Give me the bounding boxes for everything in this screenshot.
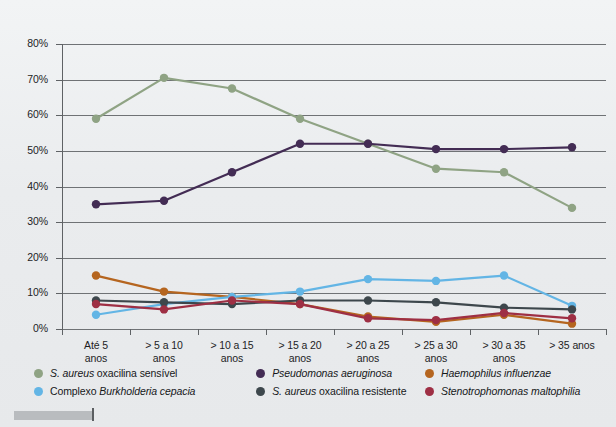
data-point: [432, 277, 440, 285]
y-axis-label: 20%: [8, 251, 48, 263]
legend-label: Haemophilus influenzae: [441, 367, 551, 379]
legend-swatch-icon: [34, 387, 43, 396]
data-point: [568, 204, 576, 212]
legend-label: Complexo Burkholderia cepacia: [50, 385, 195, 397]
data-point: [364, 314, 372, 322]
x-axis-label-line: > 35 anos: [538, 339, 606, 352]
data-point: [228, 168, 236, 176]
x-axis-label-line: > 20 a 25: [334, 339, 402, 352]
legend-label: S. aureus oxacilina sensível: [50, 367, 177, 379]
legend-swatch-icon: [425, 369, 434, 378]
data-point: [228, 296, 236, 304]
corner-bar-artifact: [14, 411, 92, 420]
legend-row: Complexo Burkholderia cepaciaS. aureus o…: [34, 382, 594, 400]
data-point: [432, 164, 440, 172]
data-point: [364, 140, 372, 148]
legend-item: Haemophilus influenzae: [425, 367, 594, 379]
x-axis-label: > 10 a 15anos: [198, 339, 266, 365]
y-axis-label: 10%: [8, 286, 48, 298]
legend-swatch-icon: [256, 387, 265, 396]
data-point: [568, 314, 576, 322]
y-axis-label: 30%: [8, 215, 48, 227]
legend-swatch-icon: [425, 387, 434, 396]
legend-item: Complexo Burkholderia cepacia: [34, 385, 256, 397]
data-point: [432, 298, 440, 306]
legend-label: Pseudomonas aeruginosa: [272, 367, 392, 379]
data-point: [500, 145, 508, 153]
data-point: [432, 145, 440, 153]
data-point: [92, 311, 100, 319]
data-point: [500, 309, 508, 317]
legend-label: Stenotrophomonas maltophilia: [441, 385, 580, 397]
data-point: [296, 140, 304, 148]
x-axis-label: > 5 a 10anos: [130, 339, 198, 365]
legend-row: S. aureus oxacilina sensívelPseudomonas …: [34, 364, 594, 382]
x-axis-tick: [606, 329, 607, 335]
chart-legend: S. aureus oxacilina sensívelPseudomonas …: [34, 364, 594, 400]
x-axis-tick: [266, 329, 267, 335]
data-point: [228, 84, 236, 92]
y-axis-label: 0%: [8, 322, 48, 334]
data-point: [160, 197, 168, 205]
legend-swatch-icon: [256, 369, 265, 378]
legend-item: Stenotrophomonas maltophilia: [425, 385, 594, 397]
data-point: [500, 168, 508, 176]
data-point: [160, 74, 168, 82]
x-axis-tick: [334, 329, 335, 335]
data-point: [296, 115, 304, 123]
x-axis-label: Até 5anos: [62, 339, 130, 365]
data-point: [92, 115, 100, 123]
x-axis-tick: [130, 329, 131, 335]
x-axis-tick: [62, 329, 63, 335]
y-axis-label: 80%: [8, 37, 48, 49]
data-point: [92, 200, 100, 208]
x-axis-label: > 25 a 30anos: [402, 339, 470, 365]
x-axis-tick: [402, 329, 403, 335]
data-point: [92, 271, 100, 279]
x-axis-label: > 15 a 20anos: [266, 339, 334, 365]
data-point: [160, 287, 168, 295]
plot-area: [62, 44, 606, 329]
x-axis-label-line: > 10 a 15: [198, 339, 266, 352]
x-axis-label: > 30 a 35anos: [470, 339, 538, 365]
series-lines: [62, 44, 606, 329]
y-axis-label: 50%: [8, 144, 48, 156]
y-axis-label: 70%: [8, 73, 48, 85]
y-axis-label: 60%: [8, 108, 48, 120]
x-axis-tick: [198, 329, 199, 335]
x-axis-label-line: > 15 a 20: [266, 339, 334, 352]
legend-item: S. aureus oxacilina sensível: [34, 367, 256, 379]
data-point: [160, 305, 168, 313]
legend-swatch-icon: [34, 369, 43, 378]
data-point: [92, 300, 100, 308]
legend-item: Pseudomonas aeruginosa: [256, 367, 425, 379]
x-axis-label-line: > 5 a 10: [130, 339, 198, 352]
data-point: [364, 296, 372, 304]
data-point: [364, 275, 372, 283]
data-point: [296, 300, 304, 308]
data-point: [296, 287, 304, 295]
x-axis-label: > 35 anos: [538, 339, 606, 352]
x-axis-tick: [538, 329, 539, 335]
x-axis-label-line: > 30 a 35: [470, 339, 538, 352]
legend-label: S. aureus oxacilina resistente: [272, 385, 406, 397]
chart-figure: 0%10%20%30%40%50%60%70%80% Até 5anos> 5 …: [0, 0, 616, 427]
data-point: [568, 305, 576, 313]
data-point: [500, 271, 508, 279]
x-axis-label: > 20 a 25anos: [334, 339, 402, 365]
y-axis-label: 40%: [8, 180, 48, 192]
data-point: [432, 316, 440, 324]
corner-tick-artifact: [92, 408, 94, 421]
legend-item: S. aureus oxacilina resistente: [256, 385, 425, 397]
data-point: [568, 143, 576, 151]
x-axis-label-line: Até 5: [62, 339, 130, 352]
x-axis-label-line: > 25 a 30: [402, 339, 470, 352]
x-axis-tick: [470, 329, 471, 335]
